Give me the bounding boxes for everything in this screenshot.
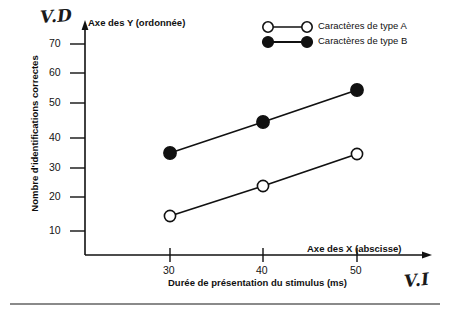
y-tick-label-70: 70 [49, 37, 61, 49]
annotation-dependent-variable: V.D [39, 5, 73, 27]
y-axis-title: Axe des Y (ordonnée) [88, 17, 185, 28]
y-tick-label-20: 20 [49, 190, 61, 202]
y-tick-label-30: 30 [49, 161, 61, 173]
y-axis-caption: Nombre d'identifications correctes [29, 49, 40, 219]
chart-canvas [0, 0, 451, 320]
legend-label-series-b: Caractères de type B [318, 35, 407, 46]
series-a-markers [164, 148, 362, 221]
x-tick-label-40: 40 [256, 264, 268, 276]
legend-marker-series-a [263, 22, 312, 32]
x-axis-caption: Durée de présentation du stimulus (ms) [168, 277, 347, 288]
legend-marker-series-b [263, 37, 313, 48]
series-b-markers [164, 84, 363, 159]
x-tick-label-30: 30 [163, 264, 175, 276]
annotation-independent-variable: V.I [403, 269, 431, 292]
x-axis-title: Axe des X (abscisse) [307, 243, 402, 254]
footer-divider [10, 303, 440, 305]
x-tick-label-50: 50 [350, 264, 362, 276]
y-tick-label-60: 60 [49, 66, 61, 78]
y-tick-label-40: 40 [49, 131, 61, 143]
legend-label-series-a: Caractères de type A [318, 20, 407, 31]
y-tick-label-10: 10 [49, 224, 61, 236]
y-tick-label-50: 50 [49, 96, 61, 108]
y-axis-ticks [70, 44, 85, 231]
